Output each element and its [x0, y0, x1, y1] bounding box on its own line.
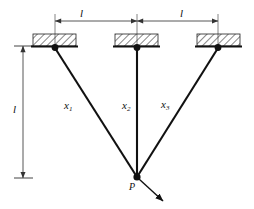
- load-arrow: [139, 179, 163, 201]
- bar-3: [137, 48, 218, 177]
- bar-1-label: x1: [64, 100, 72, 111]
- pin-joint-right: [215, 44, 222, 51]
- bar-1: [55, 48, 137, 177]
- dimension-label-vertical: l: [13, 104, 16, 115]
- bar-3-label-subscript: 3: [166, 104, 170, 112]
- statics-figure: l l l x1 x2 x3 P: [0, 0, 254, 209]
- bar-2-label-subscript: 2: [127, 105, 131, 113]
- bar-2-label: x2: [122, 100, 130, 111]
- load-label: P: [129, 182, 135, 192]
- dimension-vertical-left: [14, 46, 33, 178]
- bar-1-label-subscript: 1: [69, 105, 73, 113]
- pin-joint-middle: [134, 44, 141, 51]
- bars: [55, 48, 218, 177]
- bar-3-label: x3: [161, 99, 169, 110]
- dimension-label-top-left: l: [80, 8, 83, 19]
- pin-joint-left: [52, 44, 59, 51]
- dimension-label-top-right: l: [180, 8, 183, 19]
